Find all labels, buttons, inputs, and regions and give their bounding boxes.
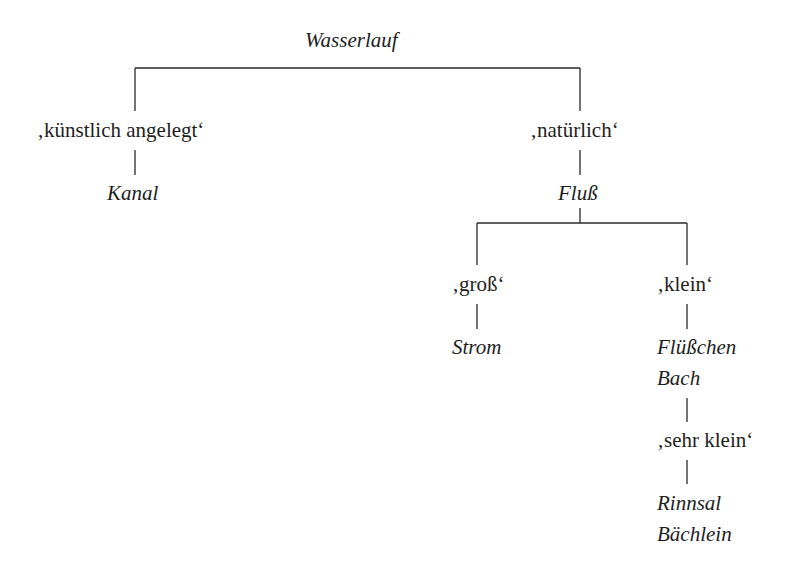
- term-fluesschen: Flüßchen: [657, 335, 736, 359]
- feature-gross: ‚groß‘: [452, 272, 504, 296]
- term-rinnsal: Rinnsal: [657, 491, 721, 515]
- term-baechlein: Bächlein: [657, 522, 732, 546]
- term-strom: Strom: [452, 335, 501, 359]
- feature-kuenstlich-angelegt: ‚künstlich angelegt‘: [37, 118, 204, 142]
- term-fluss: Fluß: [558, 181, 598, 205]
- feature-sehr-klein: ‚sehr klein‘: [657, 428, 753, 452]
- term-kanal: Kanal: [107, 181, 158, 205]
- feature-klein: ‚klein‘: [657, 272, 713, 296]
- term-bach: Bach: [657, 366, 700, 390]
- feature-natuerlich: ‚natürlich‘: [530, 118, 619, 142]
- root-node-wasserlauf: Wasserlauf: [305, 28, 398, 52]
